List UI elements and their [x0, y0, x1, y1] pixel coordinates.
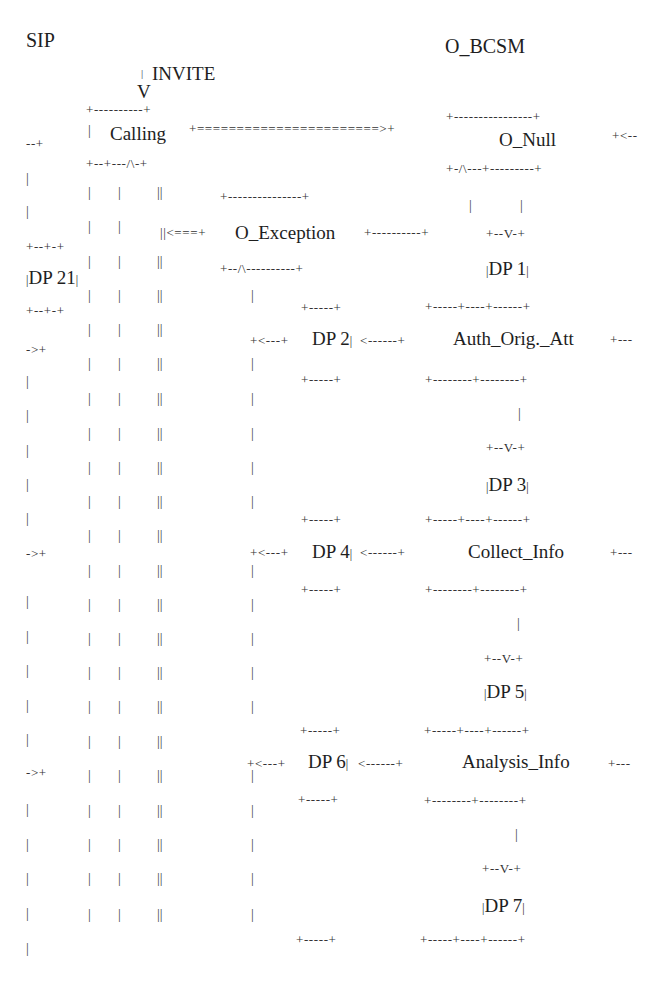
dp6-box-bottom: +-----+ [298, 793, 339, 806]
calling-pipe: || [157, 598, 163, 612]
invite-arrow-shaft: | [141, 68, 143, 79]
analysis-down-pipe: | [515, 828, 518, 842]
dp6-in-arrow: <------+ [358, 757, 403, 770]
left-arrow-dp6: ->+ [26, 766, 47, 779]
dp6-back-arrow: +<---+ [247, 757, 286, 770]
auth-box-bottom: +--------+--------+ [425, 373, 528, 386]
calling-pipe: | [88, 323, 91, 337]
dp5: |DP 5| [484, 682, 527, 701]
left-rail-pipe: | [26, 172, 29, 186]
exception-pipe: | [251, 908, 254, 922]
calling-pipe: || [157, 769, 163, 783]
o-bcsm-title: O_BCSM [445, 36, 525, 56]
calling-pipe: | [118, 564, 121, 578]
calling-pipe: || [157, 255, 163, 269]
dp3: |DP 3| [486, 475, 529, 494]
left-rail-pipe: | [26, 595, 29, 609]
dp7: |DP 7| [482, 896, 525, 915]
calling-pipe: || [157, 700, 163, 714]
exception-in-arrow: ||<===+ [160, 226, 206, 239]
dp1: |DP 1| [486, 259, 529, 278]
exception-pipe: | [251, 495, 254, 509]
auth-down-pipe: | [518, 407, 521, 421]
bottom-small-box: +-----+ [296, 933, 337, 946]
dp6: DP 6| [308, 752, 348, 771]
calling-pipe: || [157, 735, 163, 749]
dp1-box-top: +--V-+ [486, 227, 525, 240]
auth-box-top: +-----+----+------+ [425, 300, 531, 313]
collect-down-pipe: | [517, 617, 520, 631]
calling-pipe: | [88, 357, 91, 371]
calling-pipe: | [118, 632, 121, 646]
left-arrow-dp4: ->+ [26, 547, 47, 560]
calling-pipe: | [118, 495, 121, 509]
dp2-back-arrow: +<---+ [250, 334, 289, 347]
left-rail-pipe: | [26, 409, 29, 423]
calling-pipe: || [157, 461, 163, 475]
left-rail-pipe: | [26, 733, 29, 747]
dp21-box-bottom: +--+-+ [26, 304, 65, 317]
dp21: |DP 21| [26, 268, 78, 287]
exception-pipe: | [251, 289, 254, 303]
collect-box-top: +-----+----+------+ [425, 513, 531, 526]
state-o-exception: O_Exception [235, 223, 335, 242]
exception-pipe: | [251, 598, 254, 612]
onull-pipe: | [520, 199, 523, 213]
calling-pipe: | [88, 461, 91, 475]
calling-pipe: | [118, 769, 121, 783]
exception-box-top: +---------------+ [220, 190, 310, 203]
left-rail-pipe: | [26, 375, 29, 389]
dp21-box-top: +--+-+ [26, 240, 65, 253]
calling-to-onull-link: +=======================>+ [189, 122, 395, 135]
calling-box-top: +----------+ [86, 103, 151, 116]
exception-pipe: | [251, 392, 254, 406]
bottom-bcsm-box-top: +-----+----+------+ [420, 933, 526, 946]
calling-pipe: | [88, 186, 91, 200]
calling-pipe: || [157, 908, 163, 922]
onull-box-top: +----------------+ [446, 110, 541, 123]
calling-pipe: | [88, 769, 91, 783]
calling-pipe: | [118, 666, 121, 680]
dp5-box-top: +--V-+ [484, 652, 523, 665]
onull-box-bottom: +-/\---+---------+ [446, 162, 542, 175]
calling-pipe: | [118, 804, 121, 818]
calling-pipe: || [157, 186, 163, 200]
calling-pipe: || [157, 804, 163, 818]
left-arrow-dp2: ->+ [26, 343, 47, 356]
dp3-box-top: +--V-+ [486, 441, 525, 454]
dp4-box-top: +-----+ [301, 513, 342, 526]
calling-pipe: | [118, 186, 121, 200]
calling-pipe: | [88, 220, 91, 234]
calling-pipe: | [118, 872, 121, 886]
calling-pipe: || [157, 323, 163, 337]
calling-pipe: || [157, 529, 163, 543]
calling-pipe: | [88, 872, 91, 886]
dp4-in-arrow: <------+ [360, 546, 405, 559]
left-rail-pipe: | [26, 838, 29, 852]
calling-pipe: | [118, 598, 121, 612]
onull-pipe: | [469, 199, 472, 213]
dp2: DP 2| [312, 329, 352, 348]
calling-pipe: | [118, 323, 121, 337]
calling-pipe: | [88, 392, 91, 406]
dp6-box-top: +-----+ [300, 724, 341, 737]
calling-pipe: | [118, 529, 121, 543]
left-rail-pipe: | [26, 444, 29, 458]
calling-pipe: | [118, 838, 121, 852]
calling-pipe: | [118, 392, 121, 406]
dp2-box-bottom: +-----+ [301, 373, 342, 386]
calling-state: Calling [110, 124, 166, 143]
calling-pipe: | [88, 908, 91, 922]
invite-arrowhead: V [137, 82, 151, 101]
exception-pipe: | [251, 427, 254, 441]
calling-pipe: | [118, 255, 121, 269]
exception-pipe: | [251, 666, 254, 680]
invite-label: INVITE [152, 64, 215, 83]
calling-pipe: | [118, 357, 121, 371]
left-rail-pipe: | [26, 872, 29, 886]
exception-pipe: | [251, 632, 254, 646]
calling-pipe: | [88, 838, 91, 852]
calling-pipe: | [88, 735, 91, 749]
analysis-box-bottom: +--------+--------+ [424, 794, 527, 807]
calling-pipe: | [118, 427, 121, 441]
